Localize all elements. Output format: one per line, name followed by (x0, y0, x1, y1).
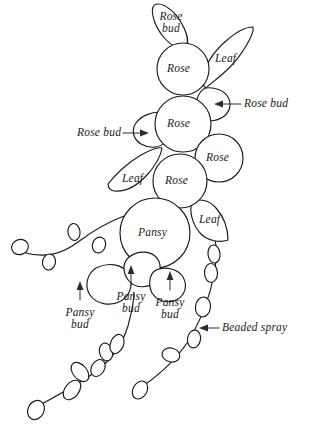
leader-pansy-bud-left (77, 281, 84, 300)
arrowhead (199, 325, 208, 332)
label-rose-bud-top: Rose bud (150, 10, 192, 35)
label-beaded-spray: Beaded spray (222, 321, 287, 333)
leader-beaded-spray (199, 325, 219, 332)
bead (204, 263, 218, 282)
label-rose-bud-right: Rose bud (244, 97, 288, 109)
label-rose-lower: Rose (165, 174, 188, 186)
bead (207, 244, 221, 263)
bead (67, 223, 81, 242)
label-rose-bud-left: Rose bud (77, 126, 121, 138)
arrowhead (77, 281, 84, 290)
label-rose-right: Rose (206, 151, 229, 163)
bead (90, 235, 108, 254)
label-rose-top: Rose (167, 62, 190, 74)
floral-arrangement-drawing (0, 0, 316, 432)
label-leaf-right: Leaf (199, 213, 220, 225)
bead (194, 296, 212, 318)
bead (186, 329, 202, 349)
label-rose-middle: Rose (167, 117, 190, 129)
label-pansy-bud-right: Pansy bud (147, 296, 193, 321)
bead (129, 378, 151, 401)
label-leaf-upper: Leaf (215, 52, 236, 64)
bead (24, 397, 48, 422)
beaded-spray-left-upper (10, 216, 124, 271)
label-leaf-left: Leaf (122, 172, 143, 184)
label-pansy-bud-left: Pansy bud (57, 306, 103, 331)
diagram-canvas: Rose bud Rose Leaf Rose bud Rose Rose bu… (0, 0, 316, 432)
label-pansy: Pansy (138, 226, 167, 238)
bead (161, 346, 182, 364)
